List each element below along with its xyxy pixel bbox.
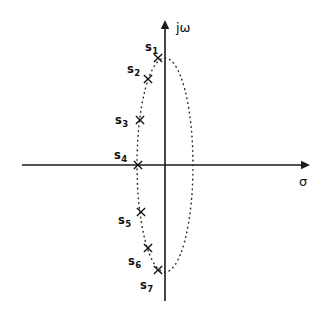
jomega-axis-arrow-icon xyxy=(161,20,169,29)
pole-plot-canvas: s1s2s3s4s5s6s7 jω σ xyxy=(0,0,325,313)
sigma-axis-arrow-icon xyxy=(301,161,310,169)
pole-label-s5: s5 xyxy=(118,213,131,229)
pole-label-s6: s6 xyxy=(128,254,141,270)
pole-markers-layer: s1s2s3s4s5s6s7 xyxy=(114,40,162,294)
pole-label-s3: s3 xyxy=(115,113,128,129)
sigma-axis-label: σ xyxy=(299,174,307,189)
pole-marker-s7: s7 xyxy=(140,266,162,294)
pole-label-s1: s1 xyxy=(145,40,158,56)
sigma-axis xyxy=(22,161,310,169)
pole-marker-s3: s3 xyxy=(115,113,144,129)
pole-label-subscript: 5 xyxy=(125,219,131,229)
pole-label-s2: s2 xyxy=(127,62,140,78)
s-plane-figure: s1s2s3s4s5s6s7 jω σ xyxy=(0,0,325,313)
jomega-axis-label: jω xyxy=(175,20,191,35)
pole-label-subscript: 7 xyxy=(147,284,153,294)
jomega-axis xyxy=(161,20,169,301)
pole-label-subscript: 1 xyxy=(152,46,158,56)
pole-label-s4: s4 xyxy=(114,148,127,164)
pole-label-subscript: 4 xyxy=(121,154,127,164)
pole-marker-s6: s6 xyxy=(128,244,152,270)
pole-label-s7: s7 xyxy=(140,278,153,294)
pole-marker-s5: s5 xyxy=(118,208,145,229)
pole-marker-s4: s4 xyxy=(114,148,142,169)
pole-label-subscript: 3 xyxy=(122,119,128,129)
pole-marker-s1: s1 xyxy=(145,40,162,62)
pole-label-subscript: 2 xyxy=(134,68,140,78)
pole-marker-s2: s2 xyxy=(127,62,152,83)
pole-label-subscript: 6 xyxy=(135,260,141,270)
